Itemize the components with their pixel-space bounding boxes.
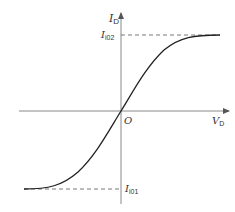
transfer-curve [24,35,220,189]
upper-level-label: Ii02 [100,29,114,41]
y-axis-label: ID [108,12,119,26]
lower-level-label: Ii01 [124,183,138,195]
transfer-characteristic-diagram: ID Ii02 O VD Ii01 [0,0,235,212]
x-axis-label: VD [212,115,224,127]
origin-label: O [124,115,132,126]
